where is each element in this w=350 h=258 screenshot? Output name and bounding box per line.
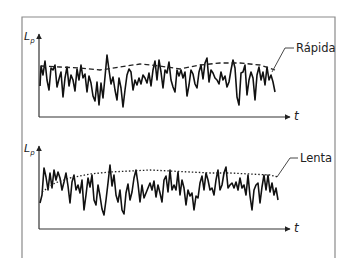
fast-x-axis-label: t (294, 109, 299, 123)
label-leader-line (272, 48, 294, 72)
envelope-curve-dotted (42, 170, 278, 192)
fast-y-axis-label: Lp (24, 30, 35, 45)
fast-response-panel (39, 34, 294, 117)
slow-response-panel (39, 146, 298, 229)
slow-curve-label: Lenta (300, 151, 332, 165)
label-leader-line (277, 158, 298, 177)
y-label-sub: p (30, 37, 34, 45)
slow-y-axis-label: Lp (24, 142, 35, 157)
diagram-frame (22, 17, 335, 258)
response-diagram (0, 0, 350, 258)
fast-curve-label: Rápida (296, 41, 336, 55)
slow-x-axis-label: t (294, 221, 299, 235)
y-label-sub: p (30, 149, 34, 157)
signal-curve (40, 165, 278, 215)
